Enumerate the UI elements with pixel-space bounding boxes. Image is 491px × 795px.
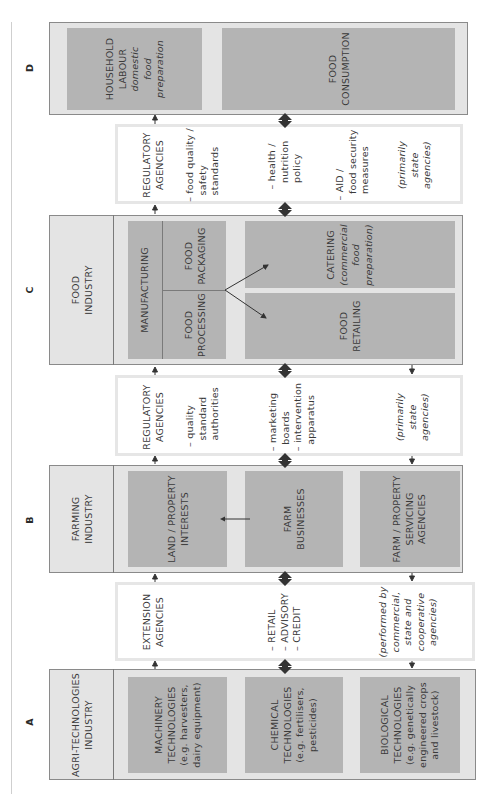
flow-arrows: [0, 0, 491, 795]
